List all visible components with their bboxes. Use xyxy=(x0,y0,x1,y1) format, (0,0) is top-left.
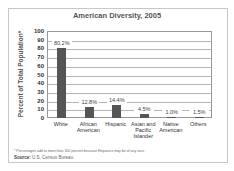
source-label: Source: xyxy=(14,155,31,160)
value-label: 14.4% xyxy=(107,97,127,103)
value-label: 12.8% xyxy=(79,99,99,105)
value-label: 1.5% xyxy=(189,109,209,115)
chart-title: American Diversity, 2005 xyxy=(0,11,234,20)
gridline xyxy=(48,110,211,111)
x-tick-label: Others xyxy=(181,121,215,127)
y-tick-label: 30 xyxy=(28,89,44,95)
bar xyxy=(85,107,94,118)
source-line: Source: U.S. Census Bureau. xyxy=(14,155,74,160)
y-tick-label: 40 xyxy=(28,80,44,86)
gridline xyxy=(48,76,211,77)
bar xyxy=(195,117,204,118)
y-tick-label: 90 xyxy=(28,37,44,43)
plot-area: 80.2%12.8%14.4%4.5%1.0%1.5% xyxy=(47,31,212,118)
gridline xyxy=(48,49,211,50)
y-tick-label: 80 xyxy=(28,45,44,51)
y-tick-label: 70 xyxy=(28,54,44,60)
gridline xyxy=(48,93,211,94)
gridline xyxy=(48,58,211,59)
y-tick-label: 0 xyxy=(28,115,44,121)
bar xyxy=(57,48,66,118)
source-text: U.S. Census Bureau. xyxy=(32,155,74,160)
y-axis-label: Percent of Total Population* xyxy=(17,31,24,118)
gridline xyxy=(48,102,211,103)
bar xyxy=(140,114,149,118)
value-label: 4.5% xyxy=(134,106,154,112)
gridline xyxy=(48,41,211,42)
value-label: 1.0% xyxy=(162,109,182,115)
y-tick-label: 50 xyxy=(28,72,44,78)
y-tick-label: 20 xyxy=(28,98,44,104)
y-tick-label: 60 xyxy=(28,63,44,69)
y-tick-label: 10 xyxy=(28,106,44,112)
bar xyxy=(112,105,121,118)
gridline xyxy=(48,67,211,68)
value-label: 80.2% xyxy=(52,40,72,46)
footnote: * Percentages add to more than 100 perce… xyxy=(14,149,145,153)
y-tick-label: 100 xyxy=(28,28,44,34)
gridline xyxy=(48,84,211,85)
bar xyxy=(167,117,176,118)
